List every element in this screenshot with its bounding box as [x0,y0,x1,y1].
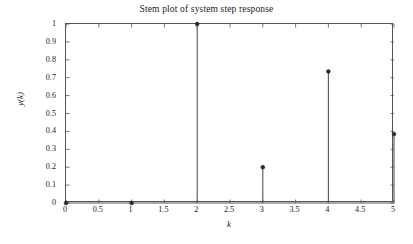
y-tick-label: 0.6 [46,90,61,99]
y-tick-label: 0 [52,198,61,207]
y-tick-label: 0.4 [46,126,61,135]
x-tick-label: 4.5 [355,205,365,214]
y-axis-tick-labels: 00.10.20.30.40.50.60.70.80.91 [0,23,61,202]
y-tick-label: 0.3 [46,144,61,153]
x-tick-label: 5 [391,205,395,214]
y-tick-label: 0.5 [46,108,61,117]
y-tick-label: 1 [52,19,61,28]
x-tick-label: 1.5 [158,205,168,214]
x-tick-label: 0.5 [93,205,103,214]
y-tick-label: 0.1 [46,180,61,189]
x-axis-label: k [65,219,393,229]
x-tick-label: 2 [194,205,198,214]
x-tick-label: 3.5 [289,205,299,214]
x-tick-label: 3 [260,205,264,214]
y-tick-label: 0.7 [46,72,61,81]
stem-marker [195,22,199,26]
x-tick-label: 1 [129,205,133,214]
stem-marker [327,70,331,74]
chart-title: Stem plot of system step response [0,4,413,14]
stem-marker [392,132,396,136]
stem-series [66,24,394,203]
plot-area [65,23,393,202]
stem-marker [261,165,265,169]
y-tick-label: 0.2 [46,162,61,171]
y-axis-label: y(k) [15,69,25,129]
x-tick-label: 2.5 [224,205,234,214]
x-tick-label: 0 [63,205,67,214]
x-axis-tick-labels: 00.511.522.533.544.55 [65,205,393,219]
x-tick-label: 4 [325,205,329,214]
stem-plot-figure: Stem plot of system step response 00.10.… [0,0,413,244]
y-tick-label: 0.8 [46,54,61,63]
y-tick-label: 0.9 [46,36,61,45]
